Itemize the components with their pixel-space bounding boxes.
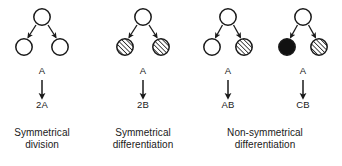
division-arrow-4-left [291, 25, 298, 38]
daughter-cell-1-left [16, 39, 32, 55]
output-label-2: 2B [123, 99, 163, 110]
caption-2-line-1: Symmetrical [98, 127, 188, 139]
input-label-4: A [283, 65, 323, 76]
division-arrow-4-right [309, 25, 316, 38]
division-arrow-1-right [48, 25, 56, 38]
daughter-cell-1-right [52, 39, 68, 55]
shared-caption-line-2: differentiation [205, 139, 325, 151]
input-label-1: A [22, 65, 62, 76]
division-arrow-3-right [234, 25, 241, 38]
daughter-cell-3-right [236, 39, 252, 55]
cell-division-figure: A 2A Symmetrical division A 2B Symmetric… [0, 0, 342, 166]
caption-1-line-2: division [2, 139, 82, 151]
daughter-cell-2-left [117, 39, 133, 55]
daughter-cell-3-left [204, 39, 220, 55]
daughter-cell-4-right [311, 39, 327, 55]
panel-4-graphics [279, 9, 327, 98]
panel-1-graphics [16, 9, 68, 98]
division-arrow-2-right [149, 25, 157, 38]
mother-cell-2 [135, 9, 151, 25]
daughter-cell-4-left [279, 39, 295, 55]
caption-1-line-1: Symmetrical [2, 127, 82, 139]
division-arrow-1-left [28, 25, 36, 38]
division-arrow-3-left [216, 25, 223, 38]
output-label-4: CB [283, 99, 323, 110]
panel-2-graphics [117, 9, 169, 98]
output-label-3: AB [208, 99, 248, 110]
input-label-2: A [123, 65, 163, 76]
shared-caption-line-1: Non-symmetrical [205, 127, 325, 139]
mother-cell-3 [220, 9, 236, 25]
mother-cell-4 [295, 9, 311, 25]
mother-cell-1 [34, 9, 50, 25]
output-label-1: 2A [22, 99, 62, 110]
division-arrow-2-left [129, 25, 137, 38]
daughter-cell-2-right [153, 39, 169, 55]
panel-3-graphics [204, 9, 252, 98]
caption-2-line-2: differentiation [98, 139, 188, 151]
input-label-3: A [208, 65, 248, 76]
